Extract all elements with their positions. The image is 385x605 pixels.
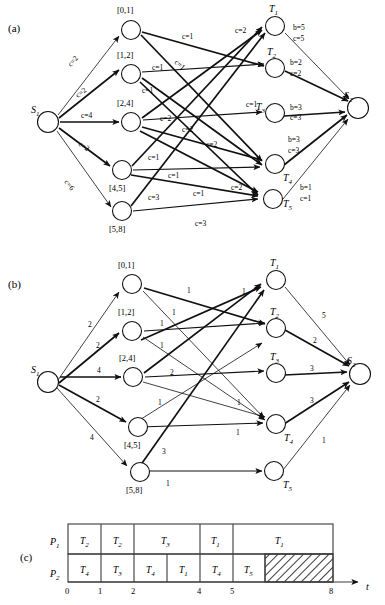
panel-b: (b) <box>8 257 371 495</box>
node-b-m2[interactable] <box>123 322 142 341</box>
edge-label-b-t1-s2: 5 <box>322 311 326 320</box>
node-a-m1-label: [0,1] <box>117 5 133 15</box>
edge-label-a-m2-t4: c=1 <box>142 86 154 95</box>
node-b-t3-label: T3 <box>270 351 280 365</box>
gantt-tick-4: 4 <box>197 586 202 596</box>
gantt-cell-p1-3: T1 <box>211 536 220 549</box>
edge-label-a-t2-s2-b: b=2 <box>290 58 302 67</box>
edge-label-b-m5-t1: 3 <box>162 447 166 456</box>
edge-label-b-m1-t2: 1 <box>187 286 191 295</box>
node-b-t3[interactable] <box>267 364 286 383</box>
node-a-s2-label: S2 <box>344 90 353 104</box>
edge-label-b-s1-m3: 4 <box>97 366 101 375</box>
node-a-t1[interactable] <box>266 17 285 36</box>
node-a-m2-label: [1,2] <box>117 50 133 60</box>
edge-label-a-m5-t5: c=3 <box>195 219 207 228</box>
node-b-m4-label: [4,5] <box>124 440 140 450</box>
edge-label-a-m1-t2: c=1 <box>182 32 194 41</box>
node-b-t5[interactable] <box>265 462 284 481</box>
node-b-t4[interactable] <box>267 415 286 434</box>
edge-label-a-m4-t4: c=2 <box>206 140 218 149</box>
edge-label-a-t3-s2-b: b=3 <box>290 103 302 112</box>
edge-label-a-m5-t5b: c=3 <box>148 193 160 202</box>
gantt-cell-p2-0: T4 <box>80 565 89 578</box>
panel-a: (a) <box>8 3 369 234</box>
edge-m1-t4 <box>141 35 262 161</box>
edge-label-b-m5-t5: 1 <box>166 479 170 488</box>
node-a-t4-label: T4 <box>283 172 293 186</box>
gantt-tick-2: 2 <box>131 586 135 596</box>
node-a-m5[interactable] <box>113 202 132 221</box>
edge-m3-t4 <box>142 127 262 160</box>
gantt-cell-p1-1: T2 <box>113 536 122 549</box>
gantt-row-label-p2: P2 <box>49 568 60 582</box>
edge-label-b-t4-s2: 3 <box>310 396 314 405</box>
gantt-cell-p2-1: T3 <box>113 565 122 578</box>
edge-label-b-s1-m4: 2 <box>96 395 100 404</box>
node-a-m1[interactable] <box>122 21 141 40</box>
gantt-cell-p2-3: T1 <box>179 565 188 578</box>
figure-svg: (a) <box>0 0 385 605</box>
edge-label-a-m5-t1: c=2 <box>182 125 194 134</box>
edge-label-b-m2-t1: 1 <box>242 287 246 296</box>
node-a-t1-label: T1 <box>269 3 278 17</box>
edge-b-m3-t1 <box>144 284 261 373</box>
edge-label-b-m4-t2: 1 <box>237 398 241 407</box>
edge-label-a-t1-s2-c: c=5 <box>293 34 305 43</box>
node-b-t2[interactable] <box>267 319 286 338</box>
node-a-m3-label: [2,4] <box>117 98 133 108</box>
gantt-tick-1: 1 <box>98 586 102 596</box>
edge-label-b-m1-t4: 1 <box>172 308 176 317</box>
node-a-s1[interactable] <box>38 112 59 133</box>
panel-b-middle-edges <box>138 284 265 471</box>
node-a-t2[interactable] <box>266 59 285 78</box>
edge-label-a-m3-t1: c=2 <box>235 26 247 35</box>
node-b-m5[interactable] <box>131 463 150 482</box>
gantt-cell-p2-2: T4 <box>146 565 155 578</box>
node-a-s1-label: S1 <box>31 104 40 118</box>
edge-label-a-s1-m1: c=2 <box>66 54 80 69</box>
figure-container: (a) <box>0 0 385 605</box>
edge-label-b-m2-t2: 1 <box>160 319 164 328</box>
edge-label-b-t5-s2: 1 <box>322 436 326 445</box>
panel-c-label: (c) <box>20 551 33 564</box>
edge-b-t5-s2 <box>283 385 350 470</box>
node-b-t1[interactable] <box>267 271 286 290</box>
node-a-m3[interactable] <box>122 113 141 132</box>
node-a-m5-label: [5,8] <box>109 224 125 234</box>
node-b-s1[interactable] <box>38 372 59 393</box>
node-b-m3[interactable] <box>124 368 143 387</box>
gantt-tick-5: 5 <box>230 586 234 596</box>
panel-c: (c) P1 P2 T2 T2 T3 T1 T1 T4 T3 T4 T1 T4 <box>20 524 369 596</box>
node-a-t5[interactable] <box>264 190 283 209</box>
edge-b-s1-m2 <box>59 333 119 383</box>
node-b-m3-label: [2,4] <box>119 353 135 363</box>
gantt-cell-p1-2: T3 <box>161 536 170 549</box>
edge-m3-t1 <box>142 30 262 118</box>
node-b-m1[interactable] <box>123 275 142 294</box>
panel-a-middle-edges <box>131 27 265 211</box>
edge-label-b-t3-s2: 3 <box>310 364 314 373</box>
node-b-m4[interactable] <box>129 418 148 437</box>
edge-b-s1-m4 <box>59 385 126 422</box>
node-a-t5-label: T5 <box>283 198 293 212</box>
gantt-cell-p2-4: T4 <box>212 565 221 578</box>
node-a-t3[interactable] <box>266 104 285 123</box>
node-a-m2[interactable] <box>122 65 141 84</box>
node-a-t4[interactable] <box>266 155 285 174</box>
edge-label-a-t4-s2-b: b=3 <box>288 135 300 144</box>
edge-b-m5-t1 <box>140 290 264 466</box>
node-b-s1-label: S1 <box>31 364 40 378</box>
edge-b-s1-m5 <box>57 388 127 466</box>
node-a-m4[interactable] <box>113 161 132 180</box>
gantt-cell-p1-0: T2 <box>80 536 89 549</box>
node-b-m5-label: [5,8] <box>126 485 142 495</box>
gantt-row-label-p1: P1 <box>49 536 60 550</box>
edge-b-t4-s2 <box>284 382 349 424</box>
edge-label-b-m3-t4: 1 <box>158 398 162 407</box>
edge-label-b-s1-m5: 4 <box>90 433 94 442</box>
edge-label-a-m3-t5: c=2 <box>231 183 243 192</box>
edge-label-a-t5-s2-c: c=1 <box>300 194 312 203</box>
node-a-m4-label: [4,5] <box>109 183 125 193</box>
gantt-cell-p1-4: T1 <box>275 536 284 549</box>
